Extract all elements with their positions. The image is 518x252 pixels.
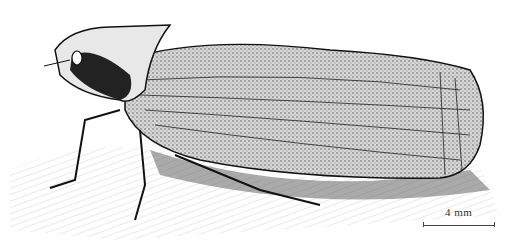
insect-drawing — [0, 0, 518, 252]
illustration: 4 mm — [0, 0, 518, 252]
scale-bar — [423, 225, 495, 226]
eye — [72, 51, 82, 65]
scale-bar-label: 4 mm — [445, 206, 472, 218]
